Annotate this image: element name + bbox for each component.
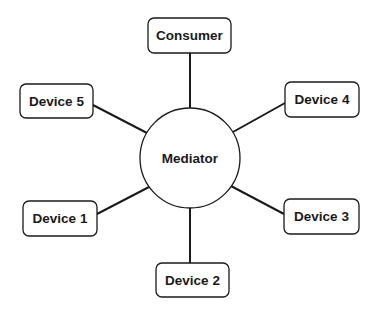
device5-label: Device 5 <box>29 94 84 109</box>
edge-device3 <box>231 186 284 214</box>
mediator-hub: Mediator <box>140 108 240 208</box>
consumer-label: Consumer <box>156 28 224 43</box>
node-device4: Device 4 <box>285 82 359 117</box>
node-device1: Device 1 <box>23 201 97 236</box>
mediator-diagram: Mediator Consumer Device 5 Device 4 Devi… <box>0 0 379 315</box>
edge-device4 <box>233 103 285 132</box>
edge-device1 <box>97 187 149 214</box>
device4-label: Device 4 <box>295 92 350 107</box>
device1-label: Device 1 <box>33 211 88 226</box>
node-device2: Device 2 <box>156 263 229 297</box>
mediator-label: Mediator <box>162 151 219 166</box>
device3-label: Device 3 <box>294 209 349 224</box>
node-device3: Device 3 <box>284 199 359 234</box>
node-consumer: Consumer <box>148 18 231 53</box>
node-device5: Device 5 <box>20 84 93 118</box>
device2-label: Device 2 <box>165 273 220 288</box>
edge-device5 <box>93 105 147 133</box>
